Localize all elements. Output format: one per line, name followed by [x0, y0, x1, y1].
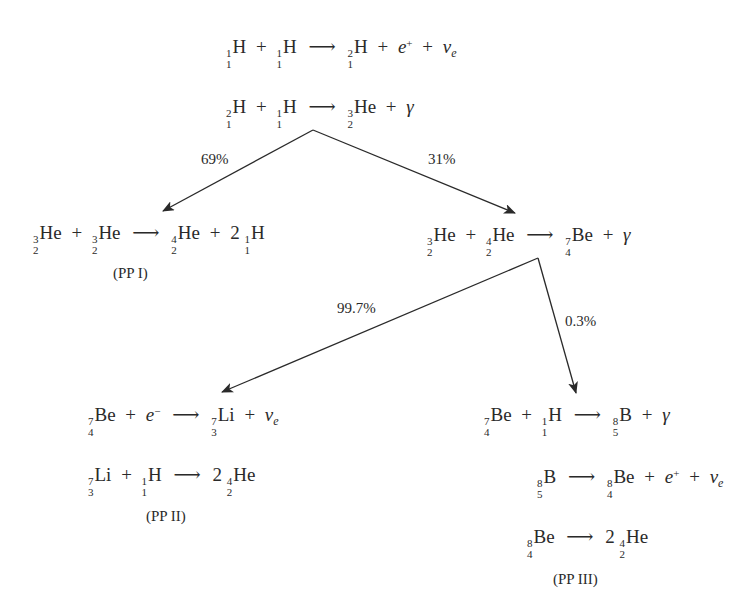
branch-percent-pp2: 99.7% [337, 300, 376, 317]
reaction-beryllium7-formation: 32He + 42He ⟶ 74Be + γ [427, 225, 631, 259]
branch-percent-pp1: 69% [201, 151, 229, 168]
isotope-notation: 11 [226, 48, 232, 71]
reaction-helium3-formation: 21H + 11H ⟶ 32He + γ [226, 97, 414, 131]
arrow-to-pp2 [222, 258, 538, 392]
reaction-deuterium-formation: 11H + 11H ⟶ 21H + e+ + νe [226, 37, 457, 71]
reaction-pp1: 32He + 32He ⟶ 42He + 2 11H [33, 223, 265, 257]
reaction-pp2-lithium-proton: 73Li + 11H ⟶ 2 42He [88, 465, 256, 499]
chain-label-pp2: (PP II) [146, 508, 186, 525]
branch-percent-pp3: 0.3% [565, 313, 596, 330]
reaction-pp3-boron-decay: 85B ⟶ 84Be + e+ + νe [537, 467, 723, 501]
chain-label-pp1: (PP I) [113, 265, 148, 282]
reaction-pp3-beryllium8-decay: 84Be ⟶ 2 42He [527, 527, 648, 561]
chain-label-pp3: (PP III) [553, 571, 598, 588]
arrow-to-pp1 [163, 130, 313, 211]
arrow-to-he3-he4 [313, 130, 515, 213]
reaction-pp3-boron-formation: 74Be + 11H ⟶ 85B + γ [484, 405, 670, 439]
reaction-arrow: ⟶ [308, 36, 335, 57]
branch-percent-pp23: 31% [428, 151, 456, 168]
reaction-pp2-electron-capture: 74Be + e− ⟶ 73Li + νe [88, 405, 279, 439]
